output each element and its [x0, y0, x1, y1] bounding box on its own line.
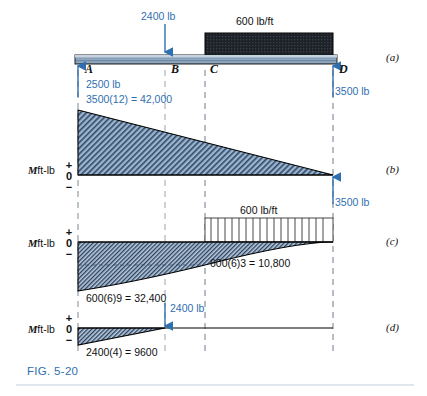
load-label-2400: 2400 lb: [141, 11, 175, 22]
panel-c-minus: −: [63, 247, 75, 258]
panel-label-b: (b): [386, 164, 399, 175]
panel-c-axis-label: Mft-lb: [28, 237, 55, 249]
panel-label-d: (d): [386, 322, 399, 333]
panel-label-a: (a): [386, 52, 399, 63]
panel-b-plus: +: [63, 161, 75, 169]
station-guidelines: [78, 70, 333, 352]
panel-c-axis-units: ft-lb: [37, 237, 55, 249]
panel-d-plus: +: [63, 314, 75, 322]
panel-c-udl-comb: [205, 218, 333, 242]
panel-b-sign-stack: + 0 −: [63, 161, 75, 191]
panel-b-peak-annotation: 3500(12) = 42,000: [86, 94, 172, 105]
panel-c-zero: 0: [63, 236, 75, 247]
distributed-load-label: 600 lb/ft: [236, 16, 273, 27]
panel-b-axis-units: ft-lb: [37, 164, 55, 176]
point-label-d: D: [339, 63, 348, 75]
bottom-rule: [16, 384, 414, 386]
panel-d-triangle-area: [78, 328, 165, 345]
panel-d-sign-stack: + 0 −: [63, 314, 75, 344]
panel-d-zero: 0: [63, 322, 75, 333]
panel-c-distributed-label: 600 lb/ft: [240, 205, 277, 216]
panel-d-load-label: 2400 lb: [170, 303, 204, 314]
panel-b-zero: 0: [63, 169, 75, 180]
figure-caption: FIG. 5-20: [27, 366, 78, 378]
panel-d-minus: −: [63, 333, 75, 344]
panel-label-c: (c): [386, 236, 398, 247]
panel-c-plus: +: [63, 228, 75, 236]
panel-c-end-annotation: 600(6)3 = 10,800: [210, 258, 290, 269]
panel-c-max-annotation: 600(6)9 = 32,400: [86, 293, 166, 304]
reaction-label-d: 3500 lb: [335, 86, 369, 97]
panel-d-area-annotation: 2400(4) = 9600: [86, 347, 158, 358]
panel-d-axis-m: M: [28, 324, 37, 335]
panel-c-axis-m: M: [28, 238, 37, 249]
panel-b-minus: −: [63, 180, 75, 191]
panel-d-axis-units: ft-lb: [37, 323, 55, 335]
point-label-b: B: [171, 63, 179, 75]
panel-b-reaction-annotation: 3500 lb: [335, 197, 369, 208]
panel-b-moment-diagram: [78, 110, 333, 204]
reaction-label-a: 2500 lb: [86, 79, 120, 90]
panel-d-axis-label: Mft-lb: [28, 323, 55, 335]
point-label-c: C: [210, 63, 218, 75]
distributed-load-block: [205, 33, 333, 55]
panel-c-sign-stack: + 0 −: [63, 228, 75, 258]
panel-b-axis-m: M: [28, 165, 37, 176]
panel-b-axis-label: Mft-lb: [28, 164, 55, 176]
point-label-a: A: [85, 63, 93, 75]
